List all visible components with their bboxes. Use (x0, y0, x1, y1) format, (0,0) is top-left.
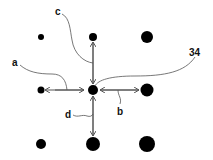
point-r3c2 (86, 137, 100, 151)
label-c: c (55, 6, 61, 17)
label-a: a (12, 57, 18, 68)
leader-b (118, 90, 121, 104)
diagram-canvas: c a 34 b d (0, 0, 213, 160)
point-r3c1 (36, 139, 46, 149)
point-r1c3 (141, 31, 153, 43)
label-b: b (117, 106, 123, 117)
leader-c (62, 14, 93, 63)
point-r1c1 (38, 34, 44, 40)
point-r1c2 (89, 33, 97, 41)
point-center (88, 85, 98, 95)
label-34: 34 (189, 47, 201, 58)
point-r3c3 (139, 136, 155, 152)
point-r2c3 (141, 84, 154, 97)
lattice-diagram: c a 34 b d (0, 0, 213, 160)
leader-lines (20, 14, 195, 116)
leader-a (20, 65, 67, 90)
lattice-points (36, 31, 155, 152)
point-r2c1 (38, 87, 45, 94)
leader-34 (95, 57, 195, 86)
label-d: d (65, 109, 71, 120)
leader-d (73, 114, 93, 116)
